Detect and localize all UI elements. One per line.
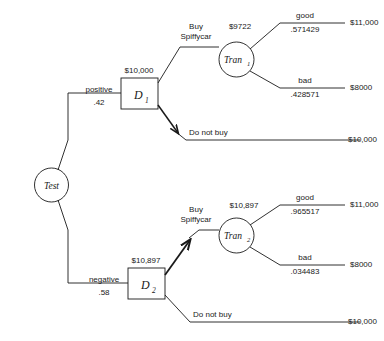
- branch-positive-label: positive: [85, 85, 112, 94]
- node-d1-value: $10,000: [125, 66, 154, 75]
- outcome-good-lower-probability: .965517: [291, 207, 320, 216]
- node-tran2-value: $10,897: [230, 201, 259, 210]
- payoff-good-upper: $11,000: [350, 18, 378, 27]
- payoff-good-lower: $11,000: [350, 200, 378, 209]
- branch-negative-label: negative: [89, 275, 119, 284]
- payoff-do-not-buy-upper: $10,000: [348, 135, 377, 144]
- option-buy-spiffycar-lower-line1: Buy: [189, 205, 203, 214]
- outcome-bad-lower-label: bad: [298, 253, 311, 262]
- node-d1-label: D: [133, 88, 143, 102]
- node-d2-subscript: 2: [152, 286, 156, 295]
- decision-tree-diagram: Test D 1 Tran 1 D 2 Tran 2: [0, 0, 384, 341]
- outcome-good-lower-label: good: [296, 193, 314, 202]
- option-buy-spiffycar-upper-line1: Buy: [189, 22, 203, 31]
- outcome-good-upper-label: good: [296, 11, 314, 20]
- payoff-bad-lower: $8000: [350, 260, 372, 269]
- payoff-bad-upper: $8000: [350, 83, 372, 92]
- node-d1-subscript: 1: [145, 96, 149, 105]
- edge-test-to-d1: [58, 93, 121, 170]
- option-buy-spiffycar-upper-line2: Spiffycar: [181, 32, 212, 41]
- node-test-label: Test: [44, 181, 59, 191]
- outcome-bad-upper-label: bad: [298, 76, 311, 85]
- branch-positive-probability: .42: [93, 98, 104, 107]
- edge-test-to-d2: [58, 200, 128, 283]
- branch-negative-probability: .58: [98, 288, 109, 297]
- node-d2-value: $10,897: [132, 256, 161, 265]
- edge-d2-buy-line: [189, 230, 219, 238]
- node-d2-label: D: [140, 278, 150, 292]
- node-tran1-value: $9722: [229, 22, 251, 31]
- payoff-do-not-buy-lower: $10,000: [348, 317, 377, 326]
- node-tran2-label: Tran: [224, 231, 242, 241]
- node-tran1-label: Tran: [224, 55, 242, 65]
- outcome-good-upper-probability: .571429: [291, 25, 320, 34]
- node-tran1-subscript: 1: [247, 60, 250, 67]
- option-buy-spiffycar-lower-line2: Spiffycar: [181, 215, 212, 224]
- outcome-bad-upper-probability: .428571: [291, 90, 320, 99]
- edge-d1-buy: [158, 47, 219, 83]
- option-do-not-buy-upper-label: Do not buy: [189, 128, 228, 137]
- outcome-bad-lower-probability: .034483: [291, 267, 320, 276]
- edge-d1-donotbuy-arrow: [158, 105, 178, 133]
- tree-graphics: Test D 1 Tran 1 D 2 Tran 2: [0, 0, 384, 341]
- option-do-not-buy-lower-label: Do not buy: [193, 310, 232, 319]
- edge-d2-buy-arrow: [165, 240, 190, 275]
